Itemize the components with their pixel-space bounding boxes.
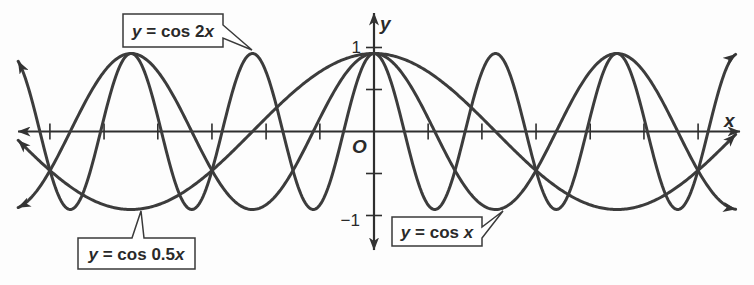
y-tick-label-neg1: −1	[341, 211, 360, 230]
label-var-x: x	[174, 245, 186, 264]
y-axis-label: y	[379, 13, 392, 34]
label-expr: = cos	[410, 223, 463, 242]
label-expr: = cos 0.5	[98, 245, 175, 264]
callout-label-cos-x: y = cos x	[400, 223, 475, 242]
label-var-x: x	[203, 22, 215, 41]
cosine-graph: x y O 1 −1 y = cos 2x y = cos 0.5x y = c…	[0, 0, 754, 285]
label-var-x: x	[463, 223, 475, 242]
callout-label-cos-2x: y = cos 2x	[131, 22, 215, 41]
label-expr: = cos 2	[142, 22, 205, 41]
callout-label-cos-0-5x: y = cos 0.5x	[88, 245, 187, 264]
x-axis-label: x	[723, 110, 736, 131]
origin-label: O	[352, 136, 367, 157]
